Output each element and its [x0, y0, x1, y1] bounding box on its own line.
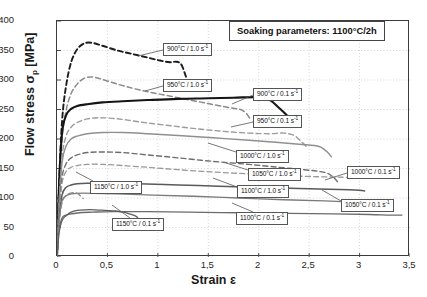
x-axis-title: Strain ε	[0, 273, 427, 287]
y-tick-label: 300	[0, 73, 14, 84]
callout-label: 900°C / 1.0 s	[167, 46, 204, 53]
callout-c1050_10: 1050°C / 1.0 s-1	[248, 168, 301, 181]
y-axis-title-text: Flow stress	[23, 87, 37, 156]
callout-c950_10: 950°C / 1.0 s-1	[163, 79, 212, 92]
series-curve	[57, 210, 138, 257]
callout-label: 1050°C / 1.0 s	[252, 171, 292, 178]
callout-c950_01: 950°C / 0.1 s-1	[253, 115, 302, 128]
callout-exponent: -1	[280, 213, 284, 218]
callout-exponent: -1	[385, 200, 389, 205]
callout-exponent: -1	[294, 89, 298, 94]
callout-label: 1050°C / 0.1 s	[345, 202, 385, 209]
x-tick-label: 0,5	[86, 259, 126, 270]
callout-exponent: -1	[391, 167, 395, 172]
y-tick-label: 250	[0, 103, 14, 114]
callout-exponent: -1	[156, 219, 160, 224]
y-tick-label: 200	[0, 132, 14, 143]
callout-c1000_10: 1000°C / 1.0 s-1	[236, 150, 289, 163]
callout-exponent: -1	[281, 186, 285, 191]
callout-c900_01: 900°C / 0.1 s-1	[253, 88, 302, 101]
y-axis-title: Flow stress σp [MPa]	[23, 9, 40, 179]
callout-label: 950°C / 0.1 s	[257, 118, 294, 125]
x-tick-label: 3,5	[389, 259, 427, 270]
y-tick-label: 50	[0, 221, 14, 232]
y-tick-label: 400	[0, 14, 14, 25]
callout-label: 1100°C / 1.0 s	[241, 188, 281, 195]
series-curve	[57, 211, 402, 257]
series-curve	[57, 132, 331, 257]
callout-c900_10: 900°C / 1.0 s-1	[163, 43, 212, 56]
y-tick-label: 350	[0, 44, 14, 55]
chart-figure: Flow stress σp [MPa] Strain ε 0501001502…	[0, 0, 427, 297]
plot-area	[56, 20, 409, 256]
y-axis-unit: [MPa]	[23, 33, 37, 67]
callout-label: 1150°C / 0.1 s	[116, 221, 156, 228]
x-tick-label: 2,5	[288, 259, 328, 270]
y-tick-label: 150	[0, 162, 14, 173]
callout-label: 1100°C / 0.1 s	[240, 215, 280, 222]
callout-c1050_01: 1050°C / 0.1 s-1	[341, 199, 394, 212]
x-tick-label: 0	[36, 259, 76, 270]
soaking-parameters-title: Soaking parameters: 1100°C/2h	[229, 21, 385, 41]
callout-c1000_01: 1000°C / 0.1 s-1	[347, 166, 400, 179]
callout-exponent: -1	[292, 169, 296, 174]
curve-lines	[57, 21, 410, 257]
x-tick-label: 1	[137, 259, 177, 270]
callout-label: 1000°C / 0.1 s	[351, 169, 391, 176]
callout-label: 950°C / 1.0 s	[167, 82, 204, 89]
y-axis-subscript: p	[30, 70, 39, 75]
callout-c1150_01: 1150°C / 0.1 s-1	[112, 218, 164, 231]
y-tick-label: 100	[0, 191, 14, 202]
callout-exponent: -1	[204, 44, 208, 49]
y-tick-label: 0	[0, 250, 14, 261]
series-curve	[57, 193, 378, 257]
callout-exponent: -1	[134, 182, 138, 187]
callout-exponent: -1	[294, 116, 298, 121]
callout-exponent: -1	[280, 151, 284, 156]
callout-label: 1000°C / 1.0 s	[240, 153, 280, 160]
callout-c1100_01: 1100°C / 0.1 s-1	[236, 212, 288, 225]
callout-c1150_10: 1150°C / 1.0 s-1	[90, 181, 142, 194]
series-curve	[57, 183, 365, 257]
callout-label: 900°C / 0.1 s	[257, 91, 294, 98]
x-tick-label: 1,5	[187, 259, 227, 270]
callout-exponent: -1	[204, 80, 208, 85]
x-tick-label: 2	[238, 259, 278, 270]
callout-label: 1150°C / 1.0 s	[94, 184, 134, 191]
x-tick-label: 3	[339, 259, 379, 270]
y-axis-symbol: σ	[23, 75, 37, 84]
callout-c1100_10: 1100°C / 1.0 s-1	[237, 185, 289, 198]
